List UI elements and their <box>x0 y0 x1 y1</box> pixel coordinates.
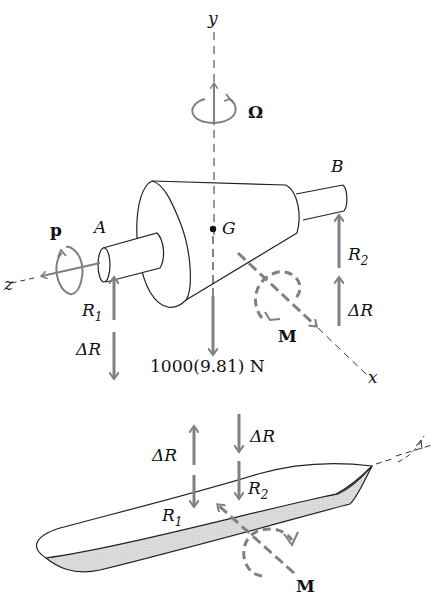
x-axis-label: x <box>368 367 378 387</box>
z-axis-label: z <box>3 274 14 294</box>
reaction-A: R1 ΔR <box>75 278 114 378</box>
z-axis: z p <box>3 220 100 294</box>
R1-label: R1 <box>81 300 102 324</box>
hull-dR-down-label: ΔR <box>249 426 275 446</box>
hull-dR-up-label: ΔR <box>151 445 177 465</box>
point-A-label: A <box>92 217 106 237</box>
weight-label: 1000(9.81) N <box>150 356 265 376</box>
top-figure: y Ω G <box>3 8 378 387</box>
dR-right-label: ΔR <box>347 300 373 320</box>
gyroscope-rotor-diagram: y Ω G <box>0 0 444 599</box>
dR-left-label: ΔR <box>75 339 101 359</box>
spin-vector-omega: Ω <box>192 84 263 125</box>
point-G-label: G <box>222 218 236 238</box>
moment-M-label: M <box>278 326 297 346</box>
bottom-figure: ΔR R1 ΔR R2 M <box>37 414 432 596</box>
y-axis: y <box>207 8 218 235</box>
omega-label: Ω <box>248 102 263 122</box>
reaction-B: R2 ΔR <box>339 216 373 326</box>
point-B-label: B <box>330 156 344 176</box>
moment-arrow-icon <box>255 272 300 318</box>
R2-label: R2 <box>347 244 368 268</box>
precession-label: p <box>50 220 62 240</box>
rotor-body <box>98 181 347 307</box>
hull-moment-M-label: M <box>296 576 315 596</box>
ship-hull <box>37 436 432 572</box>
y-axis-label: y <box>207 8 218 28</box>
